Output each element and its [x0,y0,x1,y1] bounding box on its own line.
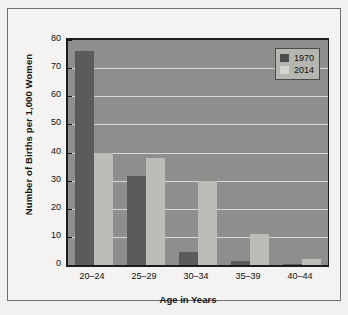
y-tick-mark [68,181,72,182]
x-tick-label: 20–24 [66,271,118,281]
bar-1970-25-29 [127,176,146,265]
legend-swatch-1970 [280,54,289,62]
x-tick-label: 40–44 [274,271,326,281]
x-tick-label: 25–29 [118,271,170,281]
y-tick-label: 60 [9,89,61,99]
y-tick-mark [68,209,72,210]
y-tick-label: 40 [9,146,61,156]
y-tick-label: 20 [9,202,61,212]
gridline [68,96,328,97]
bar-2014-35-39 [250,234,269,266]
y-tick-label: 50 [9,117,61,127]
y-tick-label: 10 [9,230,61,240]
y-tick-mark [68,68,72,69]
legend-label-2014: 2014 [294,65,314,75]
y-tick-label: 30 [9,174,61,184]
y-tick-label: 70 [9,61,61,71]
y-tick-mark [68,237,72,238]
legend-label-1970: 1970 [294,53,314,63]
y-tick-mark [68,124,72,125]
bar-1970-20-24 [75,51,94,265]
x-axis-title: Age in Years [48,294,328,305]
y-tick-mark [68,40,72,41]
y-tick-mark [68,265,72,266]
bar-2014-40-44 [302,259,321,265]
legend-item-1970[interactable]: 1970 [280,52,314,64]
legend[interactable]: 1970 2014 [275,48,320,80]
x-tick-label: 30–34 [170,271,222,281]
bar-2014-20-24 [94,153,113,266]
y-tick-mark [68,96,72,97]
bar-1970-30-34 [179,252,198,266]
legend-item-2014[interactable]: 2014 [280,64,314,76]
bar-1970-40-44 [283,264,302,265]
x-tick-label: 35–39 [222,271,274,281]
y-tick-label: 0 [9,258,61,268]
y-tick-label: 80 [9,33,61,43]
bar-2014-30-34 [198,181,217,265]
y-tick-mark [68,153,72,154]
legend-swatch-2014 [280,66,289,74]
figure-frame: Number of Births per 1,000 Women Age in … [7,8,341,301]
bar-1970-35-39 [231,261,250,265]
bar-2014-25-29 [146,158,165,265]
gridline [68,124,328,125]
figure: Number of Births per 1,000 Women Age in … [0,0,348,315]
plot-area: 1970 2014 [66,38,329,267]
